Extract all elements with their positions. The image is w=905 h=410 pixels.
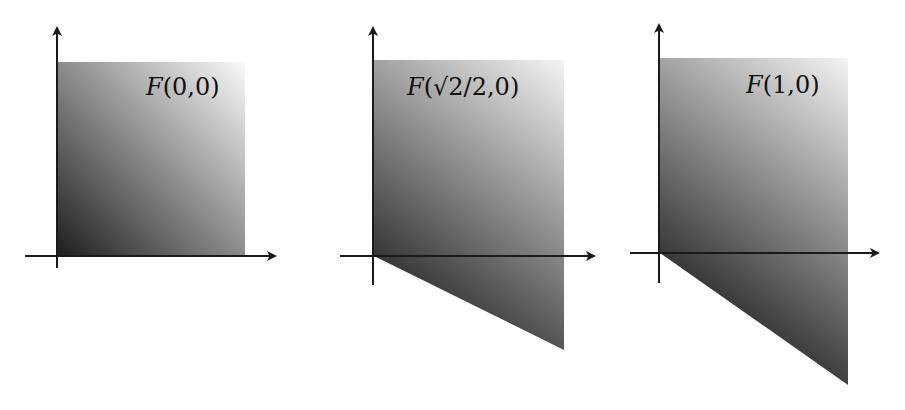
sheared-region — [660, 58, 848, 385]
panel-identity: F(0,0) — [25, 28, 275, 268]
panel-label: F(√2/2,0) — [406, 73, 519, 101]
sheared-region — [374, 60, 564, 350]
panel-label: F(1,0) — [745, 71, 820, 99]
panel-label: F(0,0) — [145, 73, 220, 101]
panel-shear-sqrt2-over-2: F(√2/2,0) — [340, 28, 594, 350]
shear-diagram: F(0,0) F(√2/2,0) F(1,0) — [0, 0, 905, 410]
panel-shear-1: F(1,0) — [630, 25, 878, 385]
